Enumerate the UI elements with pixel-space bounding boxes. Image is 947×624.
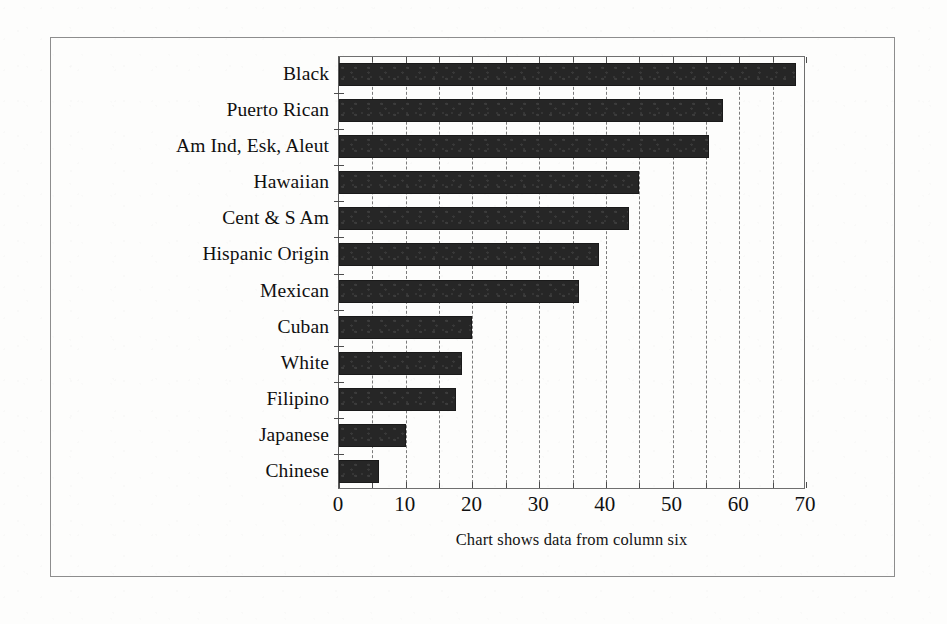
plot-area <box>338 56 805 489</box>
x-tick-mark <box>806 482 807 488</box>
bar-row <box>339 310 804 346</box>
bar <box>339 280 579 303</box>
x-tick-label: 60 <box>728 494 749 515</box>
bar <box>339 460 379 483</box>
x-tick-label: 10 <box>394 494 415 515</box>
bar <box>339 99 723 122</box>
bar-row <box>339 274 804 310</box>
category-label: Cuban <box>49 317 329 337</box>
x-tick-label: 30 <box>528 494 549 515</box>
category-label: Black <box>49 64 329 84</box>
bar-row <box>339 454 804 490</box>
bar-row <box>339 382 804 418</box>
x-tick-label: 40 <box>594 494 615 515</box>
bar <box>339 352 462 375</box>
bar-row <box>339 201 804 237</box>
x-tick-label: 0 <box>333 494 344 515</box>
x-tick-label: 70 <box>795 494 816 515</box>
category-label: Japanese <box>49 425 329 445</box>
bar-row <box>339 165 804 201</box>
figure-frame: BlackPuerto RicanAm Ind, Esk, AleutHawai… <box>50 37 895 577</box>
category-label: Am Ind, Esk, Aleut <box>49 136 329 156</box>
category-label: Hawaiian <box>49 172 329 192</box>
category-label: White <box>49 353 329 373</box>
bar <box>339 243 599 266</box>
category-label: Filipino <box>49 389 329 409</box>
chart-caption: Chart shows data from column six <box>338 530 805 550</box>
bar-row <box>339 57 804 93</box>
bar <box>339 388 456 411</box>
category-label: Cent & S Am <box>49 208 329 228</box>
bar-row <box>339 346 804 382</box>
bar-row <box>339 129 804 165</box>
bar <box>339 63 796 86</box>
x-tick-label: 50 <box>661 494 682 515</box>
bar <box>339 207 629 230</box>
bar <box>339 171 639 194</box>
bar-row <box>339 237 804 273</box>
category-label: Puerto Rican <box>49 100 329 120</box>
bar-row <box>339 93 804 129</box>
category-label: Mexican <box>49 281 329 301</box>
bar-row <box>339 418 804 454</box>
category-label: Hispanic Origin <box>49 244 329 264</box>
x-axis-tick-labels: 010203040506070 <box>338 494 805 522</box>
x-tick-mark <box>806 57 807 63</box>
bar <box>339 135 709 158</box>
category-label: Chinese <box>49 461 329 481</box>
category-axis-labels: BlackPuerto RicanAm Ind, Esk, AleutHawai… <box>51 56 329 489</box>
bar <box>339 424 406 447</box>
x-tick-label: 20 <box>461 494 482 515</box>
scanned-page: BlackPuerto RicanAm Ind, Esk, AleutHawai… <box>0 0 947 624</box>
bar <box>339 316 472 339</box>
